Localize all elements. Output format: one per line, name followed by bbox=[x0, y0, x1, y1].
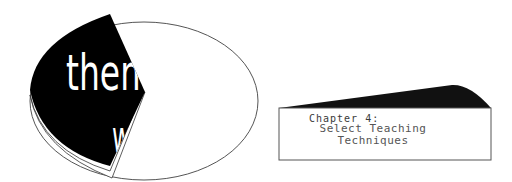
chapter-box: Chapter 4: Select Teaching Techniques bbox=[279, 109, 490, 159]
page-stage: them w Chapter 4: Select Teaching Techni… bbox=[0, 0, 512, 182]
chapter-title-line-2: Techniques bbox=[293, 135, 453, 147]
chapter-box-wedge bbox=[279, 85, 491, 108]
chapter-title: Select Teaching Techniques bbox=[279, 123, 453, 147]
